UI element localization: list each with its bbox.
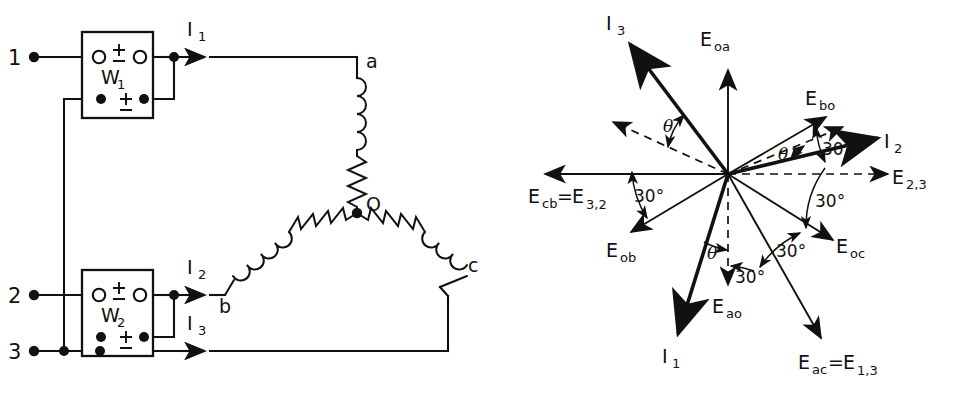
terminal-dot-3 xyxy=(29,346,39,356)
phasor-label-E13-sub: 1,3 xyxy=(857,363,878,378)
current-sublabel-I1: 1 xyxy=(198,29,206,44)
angle-label-30-left: 30° xyxy=(634,186,664,206)
junction-dot-line3-w1 xyxy=(59,346,69,356)
phasor-label-I1: I 1 xyxy=(662,345,680,371)
angle-label-theta-I2: θ xyxy=(778,144,788,164)
terminal-label-1: 1 xyxy=(8,46,21,70)
phasor-label-Eob: E ob xyxy=(606,239,636,265)
current-label-I3: I xyxy=(187,312,193,334)
phasor-label-E23-sub: 2,3 xyxy=(906,177,927,192)
phasor-label-I3-sub: 3 xyxy=(617,23,625,38)
phasor-label-E32-main: E xyxy=(572,185,584,207)
inductor-b xyxy=(233,232,292,281)
load-node-label-o: O xyxy=(366,193,381,215)
wire-b-lead xyxy=(225,280,234,295)
load-branch-b xyxy=(225,208,357,295)
phasor-label-Ecb-E32: E cb = E 3,2 xyxy=(528,185,607,212)
wattmeter-2-current-terminal-right[interactable] xyxy=(134,289,146,301)
wattmeter-2[interactable]: W 2 xyxy=(82,270,153,356)
phasor-label-Eoa-main: E xyxy=(700,28,712,50)
load-node-label-a: a xyxy=(366,50,378,72)
phasor-label-Eob-sub: ob xyxy=(620,250,636,265)
angle-label-30-right: 30° xyxy=(815,191,845,211)
current-label-I2: I xyxy=(187,256,193,278)
terminal-dot-1 xyxy=(29,52,39,62)
phasor-label-Ebo-sub: bo xyxy=(819,98,835,113)
phasor-label-I2-sub: 2 xyxy=(894,141,902,156)
terminal-dot-2 xyxy=(29,290,39,300)
angle-label-30-bottom: 30° xyxy=(735,267,765,287)
angle-label-theta-I1: θ xyxy=(707,243,717,263)
phasor-line-Ebo xyxy=(728,117,826,174)
phasor-label-I2-main: I xyxy=(884,130,890,152)
wattmeter-2-voltage-terminal-left[interactable] xyxy=(96,332,106,342)
junction-dots xyxy=(29,52,362,356)
phasor-label-E32-sub: 3,2 xyxy=(586,197,607,212)
wattmeter-2-current-terminal-left[interactable] xyxy=(93,289,105,301)
phasor-diagram-panel: I 3 E oa E bo I 2 E 2,3 E cb = E 3,2 xyxy=(488,0,976,408)
phasor-line-I2 xyxy=(728,138,878,174)
resistor-b xyxy=(289,208,357,232)
phasor-label-E23-main: E xyxy=(892,166,904,188)
phasor-label-Ecb-equals: = xyxy=(557,185,573,207)
current-sublabel-I3: 3 xyxy=(198,323,206,338)
inductor-c xyxy=(422,232,467,270)
wattmeter-1-voltage-terminal-right[interactable] xyxy=(139,94,149,104)
wire-w2-voltage-jumper xyxy=(153,295,174,337)
load-node-label-b: b xyxy=(219,295,231,317)
wire-c-corner xyxy=(440,287,448,296)
phasor-label-I1-main: I xyxy=(662,345,668,367)
wattmeter-2-voltage-terminal-right[interactable] xyxy=(139,332,149,342)
current-sublabel-I2: 2 xyxy=(198,267,206,282)
phasor-label-Eoa: E oa xyxy=(700,28,730,54)
phasor-label-Ebo-main: E xyxy=(805,87,817,109)
phasor-line-I3 xyxy=(630,44,728,174)
junction-dot-w1-out xyxy=(169,52,179,62)
phasor-label-E23: E 2,3 xyxy=(892,166,927,192)
inductor-a xyxy=(357,78,366,150)
wattmeter-1-current-terminal-right[interactable] xyxy=(134,51,146,63)
phasor-label-Eob-main: E xyxy=(606,239,618,261)
angle-label-theta-I3: θ xyxy=(663,116,673,136)
load-node-label-c: c xyxy=(468,254,478,276)
phasor-label-Eao: E ao xyxy=(712,295,742,321)
phasor-label-Ecb-sub: cb xyxy=(542,196,557,211)
load-branch-c xyxy=(357,208,467,287)
phasor-label-I1-sub: 1 xyxy=(672,356,680,371)
phasor-label-Eac-sub: ac xyxy=(812,362,827,377)
current-phasors xyxy=(630,44,878,334)
phasor-label-E13-main: E xyxy=(843,351,855,373)
phasor-label-Eoc: E oc xyxy=(836,235,865,261)
phasor-label-Eoc-sub: oc xyxy=(850,246,865,261)
phasor-label-I3: I 3 xyxy=(606,12,625,38)
wattmeter-1[interactable]: W 1 xyxy=(82,32,153,118)
wattmeter-1-voltage-terminal-left[interactable] xyxy=(96,94,106,104)
phasor-label-Eac-main: E xyxy=(798,351,810,373)
phasor-label-I3-main: I xyxy=(606,12,612,34)
wire-w1-voltage-jumper xyxy=(153,57,174,99)
wattmeter-1-current-terminal-left[interactable] xyxy=(93,51,105,63)
angle-label-30-top-right: 30° xyxy=(822,139,852,159)
load-branch-a xyxy=(348,78,366,213)
wattmeter-1-sublabel: 1 xyxy=(117,77,125,92)
circuit-svg: W 1 W 2 xyxy=(0,0,500,408)
circuit-diagram-panel: W 1 W 2 xyxy=(0,0,500,408)
phasor-label-Eoc-main: E xyxy=(836,235,848,257)
phasor-label-Eao-sub: ao xyxy=(726,306,742,321)
junction-dot-line3-w2 xyxy=(95,346,105,356)
phasor-label-Eao-main: E xyxy=(712,295,724,317)
phasor-label-Ebo: E bo xyxy=(805,87,835,113)
phasor-svg: I 3 E oa E bo I 2 E 2,3 E cb = E 3,2 xyxy=(488,0,976,408)
current-label-I1: I xyxy=(187,18,193,40)
phasor-label-I2: I 2 xyxy=(884,130,902,156)
phasor-label-Eac-equals: = xyxy=(828,351,844,373)
figure-root: W 1 W 2 xyxy=(0,0,976,408)
phasor-label-Eac-E13: E ac = E 1,3 xyxy=(798,351,878,378)
junction-dot-w2-out xyxy=(169,290,179,300)
phasor-label-Ecb-main: E xyxy=(528,185,540,207)
terminal-label-2: 2 xyxy=(8,284,21,308)
phasor-line-Eac-E13 xyxy=(728,174,821,338)
terminal-label-3: 3 xyxy=(8,340,21,364)
wattmeter-2-sublabel: 2 xyxy=(117,315,125,330)
phasor-label-Eoa-sub: oa xyxy=(714,39,730,54)
